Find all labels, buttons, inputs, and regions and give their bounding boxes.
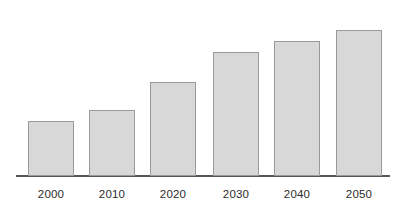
bar-category-label-3: 2030 <box>201 188 271 200</box>
bar-chart: 35.0 2000 40.2 2010 54.6 2020 71.5 2030 … <box>0 0 404 209</box>
bar-category-label-5: 2050 <box>324 188 394 200</box>
bar-category-label-0: 2000 <box>16 188 86 200</box>
bar-rect-1[interactable] <box>89 110 135 176</box>
plot-area: 35.0 2000 40.2 2010 54.6 2020 71.5 2030 … <box>0 0 404 209</box>
bar-rect-5[interactable] <box>336 30 382 176</box>
bar-rect-3[interactable] <box>213 52 259 176</box>
bar-rect-4[interactable] <box>274 41 320 176</box>
bar-rect-2[interactable] <box>150 82 196 176</box>
bar-category-label-1: 2010 <box>77 188 147 200</box>
bar-category-label-4: 2040 <box>262 188 332 200</box>
bar-category-label-2: 2020 <box>138 188 208 200</box>
bar-rect-0[interactable] <box>28 121 74 176</box>
